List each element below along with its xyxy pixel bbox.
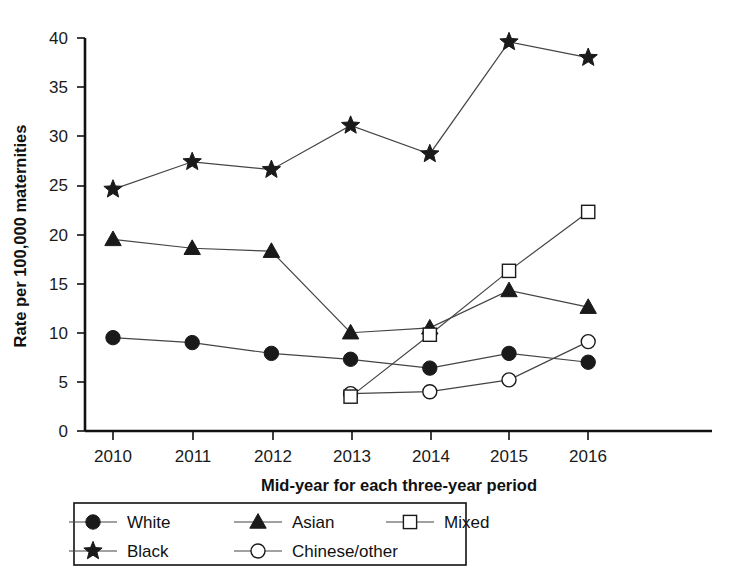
data-point-2013	[343, 352, 357, 366]
data-point-2013	[344, 390, 357, 403]
y-tick-15: 15	[49, 275, 68, 294]
data-point-2013	[341, 116, 359, 133]
data-point-2014	[423, 361, 437, 375]
series-black	[104, 32, 597, 197]
series-asian	[105, 231, 597, 339]
data-point-2016	[581, 355, 595, 369]
data-point-2010	[104, 180, 122, 197]
y-tick-5: 5	[59, 373, 68, 392]
legend-item-mixed[interactable]: Mixed	[386, 513, 489, 532]
data-point-2015	[502, 373, 516, 387]
data-point-2015	[500, 32, 518, 49]
legend-label: Mixed	[444, 513, 489, 532]
legend-marker-filled-circle-icon	[86, 515, 100, 529]
legend-marker-open-square-icon	[403, 515, 416, 528]
x-tick-2012: 2012	[254, 447, 292, 466]
series-mixed	[344, 205, 595, 403]
y-tick-0: 0	[59, 422, 68, 441]
figure-container: Rate per 100,000 maternities 40 35 30 25…	[0, 0, 740, 573]
x-tick-2015: 2015	[490, 447, 528, 466]
x-tick-labels: 2010 2011 2012 2013 2014 2015 2016	[94, 447, 607, 466]
plot-series-layer	[104, 32, 597, 403]
y-tick-10: 10	[49, 324, 68, 343]
data-point-2011	[185, 335, 199, 349]
data-point-2010	[106, 330, 120, 344]
x-ticks	[113, 431, 588, 440]
axis-lines	[77, 38, 712, 440]
data-point-2011	[183, 152, 201, 169]
data-point-2014	[423, 328, 436, 341]
data-point-2010	[105, 231, 121, 246]
legend-item-black[interactable]: Black	[69, 541, 169, 561]
y-tick-25: 25	[49, 176, 68, 195]
y-axis-title: Rate per 100,000 maternities	[11, 125, 29, 348]
y-tick-labels: 40 35 30 25 20 15 10 5 0	[49, 29, 68, 441]
data-point-2016	[581, 335, 595, 349]
legend-label: Black	[127, 542, 169, 561]
y-tick-30: 30	[49, 127, 68, 146]
legend-marker-filled-triangle-icon	[250, 514, 266, 529]
legend-label: Asian	[292, 513, 335, 532]
x-tick-2010: 2010	[94, 447, 132, 466]
data-point-2016	[582, 205, 595, 218]
legend-item-chinese-other[interactable]: Chinese/other	[234, 542, 398, 561]
y-tick-35: 35	[49, 78, 68, 97]
x-tick-2014: 2014	[412, 447, 450, 466]
line-chart: Rate per 100,000 maternities 40 35 30 25…	[0, 0, 740, 573]
y-tick-40: 40	[49, 29, 68, 48]
data-point-2015	[502, 346, 516, 360]
data-point-2012	[263, 243, 279, 258]
data-point-2016	[579, 48, 597, 65]
legend-entries-layer: WhiteAsianMixedBlackChinese/other	[69, 513, 489, 561]
data-point-2012	[264, 346, 278, 360]
data-point-2015	[501, 282, 517, 297]
legend-label: Chinese/other	[292, 542, 398, 561]
legend-marker-open-circle-icon	[251, 544, 265, 558]
legend-item-asian[interactable]: Asian	[234, 513, 335, 532]
data-point-2014	[423, 385, 437, 399]
data-point-2014	[421, 144, 439, 161]
series-line	[351, 212, 589, 397]
data-point-2015	[502, 264, 515, 277]
series-line	[351, 342, 589, 394]
y-tick-20: 20	[49, 226, 68, 245]
x-axis-title: Mid-year for each three-year period	[261, 476, 537, 494]
legend-item-white[interactable]: White	[69, 513, 170, 532]
data-point-2012	[262, 160, 280, 177]
legend-label: White	[127, 513, 170, 532]
x-tick-2011: 2011	[175, 447, 212, 466]
x-tick-2013: 2013	[333, 447, 371, 466]
legend-marker-filled-star-icon	[84, 541, 102, 558]
series-chinese-other	[344, 335, 596, 401]
x-tick-2016: 2016	[569, 447, 607, 466]
